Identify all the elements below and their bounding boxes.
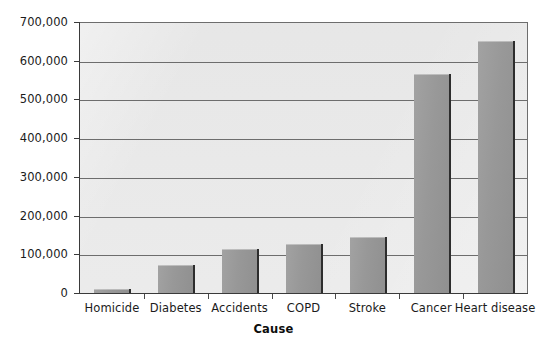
y-axis-tick-label: 0 [61,286,68,300]
bar[interactable] [158,265,193,294]
x-axis-title: Cause [0,322,547,336]
y-axis-tick-mark [74,99,80,100]
bar[interactable] [414,74,449,294]
y-axis-tick-label: 600,000 [20,54,68,68]
x-axis-tick-label: Heart disease [455,301,536,315]
bar-highlight [286,244,321,245]
y-axis-tick-mark [74,22,80,23]
gridline [80,100,527,101]
y-axis-tick-mark [74,293,80,294]
bar[interactable] [286,244,321,294]
x-axis-tick-mark [335,294,336,299]
y-axis-labels: 0100,000200,000300,000400,000500,000600,… [0,0,74,350]
y-axis-tick-mark [74,138,80,139]
x-axis-tick-label: COPD [287,301,320,315]
x-axis-tick-mark [144,294,145,299]
y-axis-tick-label: 200,000 [20,209,68,223]
bar-highlight [414,74,449,75]
x-axis-tick-label: Cancer [411,301,452,315]
bar[interactable] [478,41,513,294]
y-axis-tick-label: 100,000 [20,247,68,261]
y-axis-tick-mark [74,177,80,178]
bar-highlight [478,41,513,42]
x-axis-tick-mark [399,294,400,299]
x-axis-tick-label: Homicide [85,301,140,315]
bar-highlight [350,237,385,238]
x-axis-tick-label: Stroke [349,301,386,315]
y-axis-tick-label: 400,000 [20,131,68,145]
x-axis-tick-label: Diabetes [150,301,202,315]
y-axis-tick-mark [74,61,80,62]
plot-area [80,22,528,294]
y-axis-tick-label: 300,000 [20,170,68,184]
x-axis-tick-mark [272,294,273,299]
x-axis-tick-mark [463,294,464,299]
bar[interactable] [222,249,257,294]
bar-highlight [94,289,129,290]
gridline [80,62,527,63]
bar[interactable] [350,237,385,294]
gridline [80,217,527,218]
x-axis-spine [79,293,528,294]
bar-highlight [158,265,193,266]
y-axis-tick-label: 500,000 [20,92,68,106]
x-axis-tick-mark [208,294,209,299]
x-axis-tick-label: Accidents [211,301,268,315]
gridline [80,139,527,140]
y-axis-tick-mark [74,216,80,217]
y-axis-spine [79,22,80,294]
y-axis-tick-mark [74,254,80,255]
bar-highlight [222,249,257,250]
bar-chart: 0100,000200,000300,000400,000500,000600,… [0,0,547,350]
y-axis-tick-label: 700,000 [20,15,68,29]
gridline [80,178,527,179]
